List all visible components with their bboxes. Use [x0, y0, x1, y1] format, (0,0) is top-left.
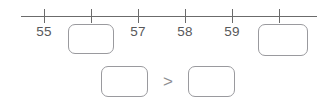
numberline-answer-box-1[interactable]	[68, 24, 114, 54]
number-line-label-59: 59	[212, 24, 252, 39]
worksheet-canvas: 55 57 58 59 >	[0, 0, 330, 108]
number-line-tick-5	[232, 9, 233, 23]
number-line-axis	[21, 16, 317, 17]
comparison-right-answer-box[interactable]	[188, 66, 235, 97]
number-line-tick-6	[279, 9, 280, 23]
number-line-tick-3	[138, 9, 139, 23]
number-line-label-58: 58	[165, 24, 205, 39]
number-line-label-55: 55	[24, 24, 64, 39]
number-line-tick-1	[44, 9, 45, 23]
number-line-tick-2	[91, 9, 92, 23]
comparison-row: >	[0, 60, 330, 108]
number-line-tick-4	[185, 9, 186, 23]
greater-than-icon: >	[156, 66, 180, 97]
comparison-left-answer-box[interactable]	[101, 66, 148, 97]
number-line-label-57: 57	[118, 24, 158, 39]
number-line: 55 57 58 59	[0, 0, 330, 60]
numberline-answer-box-2[interactable]	[258, 24, 308, 56]
